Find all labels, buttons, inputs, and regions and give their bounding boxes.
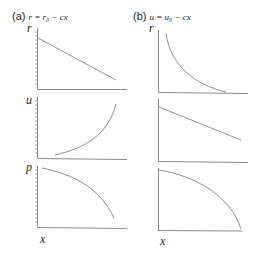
panel-a-plot1-axes xyxy=(38,28,128,90)
panel-a-plot2-axes xyxy=(38,97,128,160)
panel-a-plot3-axes xyxy=(38,166,128,229)
panel-a-u-curve xyxy=(55,104,116,155)
panel-b-u-curve xyxy=(159,107,241,140)
panel-a-p-curve xyxy=(42,168,114,218)
panel-a-r-curve xyxy=(38,38,116,80)
panel-b-plot2-axes xyxy=(159,99,249,163)
panel-b-r-curve xyxy=(166,33,226,92)
panel-b-p-curve xyxy=(159,170,241,229)
panel-b-plot3-axes xyxy=(159,168,243,231)
plots-canvas xyxy=(0,0,259,258)
figure: (a)r = r₀ − cx (b)u = u₀ − cx r u p x r … xyxy=(0,0,259,258)
